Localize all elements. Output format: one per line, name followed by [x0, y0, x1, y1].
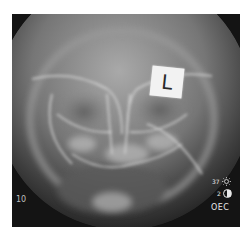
- contrast-indicator: 2: [217, 189, 232, 198]
- contrast-icon: [223, 189, 232, 198]
- brightness-value: 37: [212, 178, 220, 185]
- frame-number: 10: [16, 195, 26, 204]
- brightness-indicator: 37: [212, 177, 231, 186]
- brand-logo: OEC: [211, 203, 229, 212]
- marker-label: L: [160, 69, 174, 94]
- xray-image-frame: L 10 37 2 OEC: [12, 14, 240, 227]
- left-side-marker: L: [150, 65, 185, 98]
- contrast-value: 2: [217, 190, 221, 197]
- skull-radiograph: [12, 14, 240, 227]
- sun-icon: [222, 177, 231, 186]
